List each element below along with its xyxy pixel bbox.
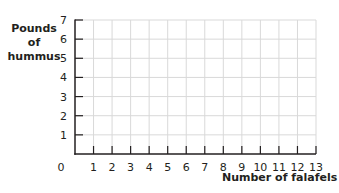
y-tick-label: 3: [60, 91, 67, 104]
y-tick-label: 4: [60, 71, 67, 84]
x-axis-label: Number of falafels: [222, 171, 337, 184]
y-axis-label-line: hummus: [4, 50, 64, 64]
x-tick-label: 4: [146, 161, 153, 174]
x-tick-label: 3: [127, 161, 134, 174]
y-axis-label-line: Pounds: [4, 22, 64, 36]
x-tick-label: 7: [201, 161, 208, 174]
x-tick-label: 6: [183, 161, 190, 174]
y-axis-label: Pounds of hummus: [4, 22, 64, 64]
x-tick-label: 1: [90, 161, 97, 174]
x-tick-label: 2: [109, 161, 116, 174]
x-tick-label: 0: [58, 161, 65, 174]
y-tick-label: 1: [60, 129, 67, 142]
y-tick-label: 2: [60, 110, 67, 123]
y-axis-label-line: of: [4, 36, 64, 50]
x-tick-label: 5: [164, 161, 171, 174]
